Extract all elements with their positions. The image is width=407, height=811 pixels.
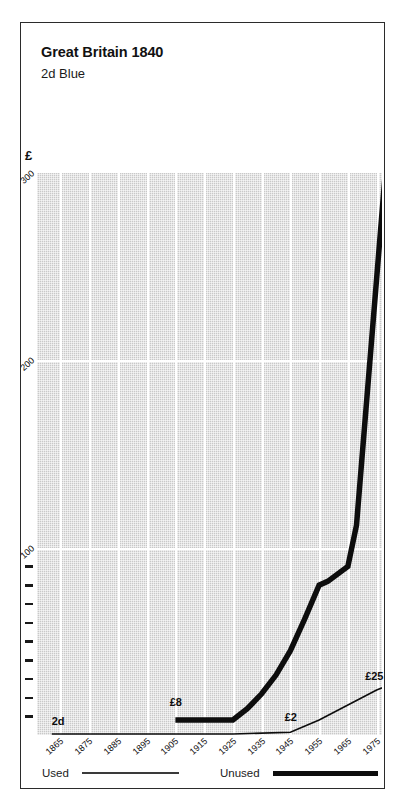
legend-divider <box>20 788 385 789</box>
y-axis-minor-tick <box>25 622 33 625</box>
value-annotation: £2 <box>285 711 297 723</box>
y-axis-minor-tick <box>25 603 33 606</box>
y-axis-minor-tick <box>25 678 33 681</box>
value-annotation: 2d <box>52 715 65 727</box>
y-axis-minor-tick <box>25 640 33 643</box>
legend-label-unused: Unused <box>220 767 260 779</box>
legend-swatch-unused-line <box>273 771 378 776</box>
y-axis-minor-tick <box>25 584 33 587</box>
y-axis-minor-tick <box>25 565 33 568</box>
value-annotation: £25 <box>365 670 383 682</box>
series-line-unused <box>175 173 382 720</box>
y-axis-minor-tick <box>25 697 33 700</box>
chart-subtitle: 2d Blue <box>41 66 85 81</box>
series-line-used <box>52 684 382 734</box>
legend-item-unused: Unused <box>220 767 378 779</box>
legend-item-used: Used <box>42 767 179 779</box>
plot-area <box>37 173 382 735</box>
y-axis-unit-label: £ <box>25 148 32 163</box>
chart-page: Great Britain 1840 2d Blue £ 300200100 1… <box>0 0 407 811</box>
y-axis-minor-tick <box>25 659 33 662</box>
value-annotation: £8 <box>170 696 182 708</box>
y-axis-minor-tick <box>25 715 33 718</box>
series-lines <box>37 173 382 735</box>
chart-legend: Used Unused <box>20 764 385 789</box>
chart-title: Great Britain 1840 <box>41 44 163 60</box>
legend-label-used: Used <box>42 767 69 779</box>
legend-swatch-used-line <box>82 772 179 774</box>
